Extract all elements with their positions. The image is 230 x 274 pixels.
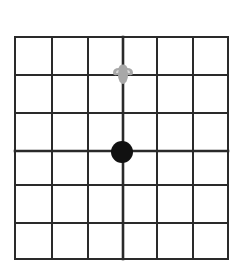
grid-diagram xyxy=(0,0,230,274)
filled-circle-icon xyxy=(111,141,133,163)
person-topdown-icon xyxy=(113,65,133,85)
